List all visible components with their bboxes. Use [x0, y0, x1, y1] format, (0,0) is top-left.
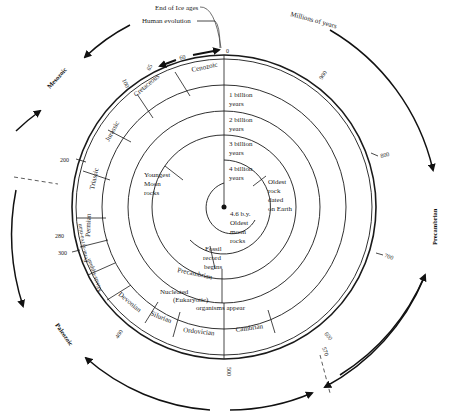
svg-text:rocks: rocks	[230, 237, 245, 245]
mesozoic-boundary-dash	[14, 177, 58, 184]
mesozoic-label: Mesozoic	[46, 66, 68, 90]
human-evolution-label: Human evolution	[142, 17, 191, 25]
geologic-time-spiral-diagram: 0 60 65 100 200 280 300 400 500 570 600 …	[0, 0, 449, 417]
svg-text:2 billion: 2 billion	[229, 116, 253, 124]
svg-text:(Eukaryotic): (Eukaryotic)	[173, 296, 209, 304]
svg-text:years: years	[229, 174, 244, 182]
svg-text:Cambrian: Cambrian	[235, 322, 264, 334]
svg-text:4 billion: 4 billion	[229, 165, 253, 173]
svg-text:Permian: Permian	[84, 213, 93, 237]
units-label: Millions of years	[289, 10, 338, 30]
end-of-ice-ages-label: End of Ice ages	[155, 4, 199, 12]
svg-text:Cenozoic: Cenozoic	[191, 61, 219, 74]
svg-text:400: 400	[114, 329, 124, 340]
paleozoic-arrow-top	[12, 190, 23, 306]
arrow-to-zero	[193, 50, 219, 55]
svg-text:0: 0	[226, 48, 229, 54]
svg-text:organisms appear: organisms appear	[196, 304, 246, 312]
svg-text:Triassic: Triassic	[88, 167, 100, 190]
svg-text:700: 700	[384, 252, 395, 261]
svg-text:300: 300	[58, 250, 67, 256]
svg-text:4.6 b.y.: 4.6 b.y.	[230, 210, 251, 218]
svg-text:Youngest: Youngest	[144, 171, 170, 179]
precambrian-arrow-bottom	[325, 278, 424, 387]
svg-text:65: 65	[145, 63, 153, 71]
precambrian-arrow-top	[330, 30, 433, 170]
precambrian-arrow-up	[340, 275, 425, 375]
svg-text:800: 800	[380, 151, 390, 159]
svg-text:Fossil: Fossil	[205, 245, 222, 253]
svg-text:dated: dated	[268, 196, 284, 204]
svg-text:1 billion: 1 billion	[229, 91, 253, 99]
svg-text:280: 280	[55, 233, 64, 239]
svg-text:3 billion: 3 billion	[229, 140, 253, 148]
svg-text:900: 900	[318, 70, 328, 81]
era-arrows: Mesozoic Paleozoic Precambrian	[12, 25, 438, 410]
svg-text:begins: begins	[204, 263, 223, 271]
svg-text:Oldest: Oldest	[268, 178, 286, 186]
svg-text:years: years	[229, 125, 244, 133]
top-annotations: End of Ice ages Human evolution Millions…	[142, 4, 338, 66]
svg-text:Oldest: Oldest	[230, 219, 248, 227]
svg-text:Moon: Moon	[144, 180, 161, 188]
tick-labels: 0 60 65 100 200 280 300 400 500 570 600 …	[55, 48, 394, 376]
svg-text:on Earth: on Earth	[268, 205, 292, 213]
paleozoic-arrow-bottom	[86, 358, 210, 410]
svg-text:100: 100	[121, 78, 130, 89]
svg-text:years: years	[229, 100, 244, 108]
svg-text:200: 200	[60, 157, 69, 163]
svg-text:Jurassic: Jurassic	[104, 120, 121, 143]
svg-text:record: record	[203, 254, 221, 262]
svg-text:500: 500	[226, 367, 232, 376]
svg-text:Ordovician: Ordovician	[183, 326, 216, 337]
mesozoic-arrow-top	[85, 25, 130, 57]
paleozoic-arrow-right	[230, 393, 312, 410]
precambrian-label: Precambrian	[431, 208, 438, 245]
svg-text:years: years	[229, 149, 244, 157]
svg-text:Devonian: Devonian	[117, 290, 143, 314]
svg-text:rock: rock	[268, 187, 281, 195]
ring-labels: 1 billion years 2 billion years 3 billio…	[229, 91, 253, 182]
svg-text:rocks: rocks	[144, 189, 159, 197]
mesozoic-arrow-bottom	[16, 111, 40, 131]
svg-text:Nucleated: Nucleated	[160, 288, 189, 296]
paleozoic-label: Paleozoic	[54, 322, 75, 347]
precambrian-boundary-dash	[320, 355, 330, 393]
svg-text:570: 570	[321, 346, 330, 357]
svg-text:600: 600	[323, 331, 333, 342]
svg-text:moon: moon	[230, 228, 246, 236]
